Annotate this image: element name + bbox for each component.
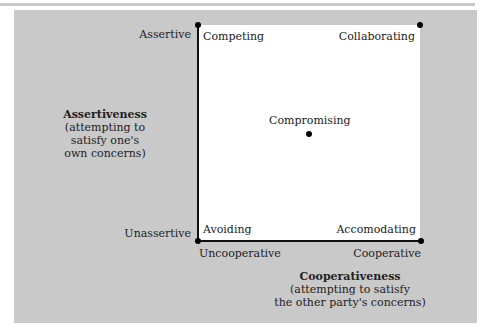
cooperative-label: Cooperative	[353, 247, 421, 260]
assertiveness-sub-2: satisfy one's	[40, 134, 170, 147]
top-right-dot	[417, 22, 423, 28]
cooperativeness-title: Cooperativeness (attempting to satisfy t…	[240, 270, 460, 309]
bottom-left-dot	[195, 238, 201, 244]
assertive-label: Assertive	[139, 28, 191, 41]
assertiveness-title: Assertiveness (attempting to satisfy one…	[40, 108, 170, 160]
avoiding-label: Avoiding	[203, 223, 252, 236]
competing-label: Competing	[203, 30, 264, 43]
bottom-right-dot	[418, 238, 424, 244]
collaborating-label: Collaborating	[339, 30, 415, 43]
cooperativeness-sub-1: (attempting to satisfy	[240, 283, 460, 296]
center-dot	[306, 131, 312, 137]
unassertive-label: Unassertive	[124, 227, 191, 240]
assertiveness-sub-3: own concerns)	[40, 147, 170, 160]
compromising-label: Compromising	[269, 114, 351, 127]
top-left-dot	[195, 22, 201, 28]
cooperativeness-axis-line	[197, 240, 422, 242]
cooperativeness-sub-2: the other party's concerns)	[240, 296, 460, 309]
cooperativeness-heading: Cooperativeness	[240, 270, 460, 283]
uncooperative-label: Uncooperative	[199, 247, 281, 260]
top-divider	[0, 3, 475, 6]
assertiveness-heading: Assertiveness	[40, 108, 170, 121]
assertiveness-sub-1: (attempting to	[40, 121, 170, 134]
accomodating-label: Accomodating	[336, 223, 416, 236]
assertiveness-axis-line	[197, 25, 199, 241]
